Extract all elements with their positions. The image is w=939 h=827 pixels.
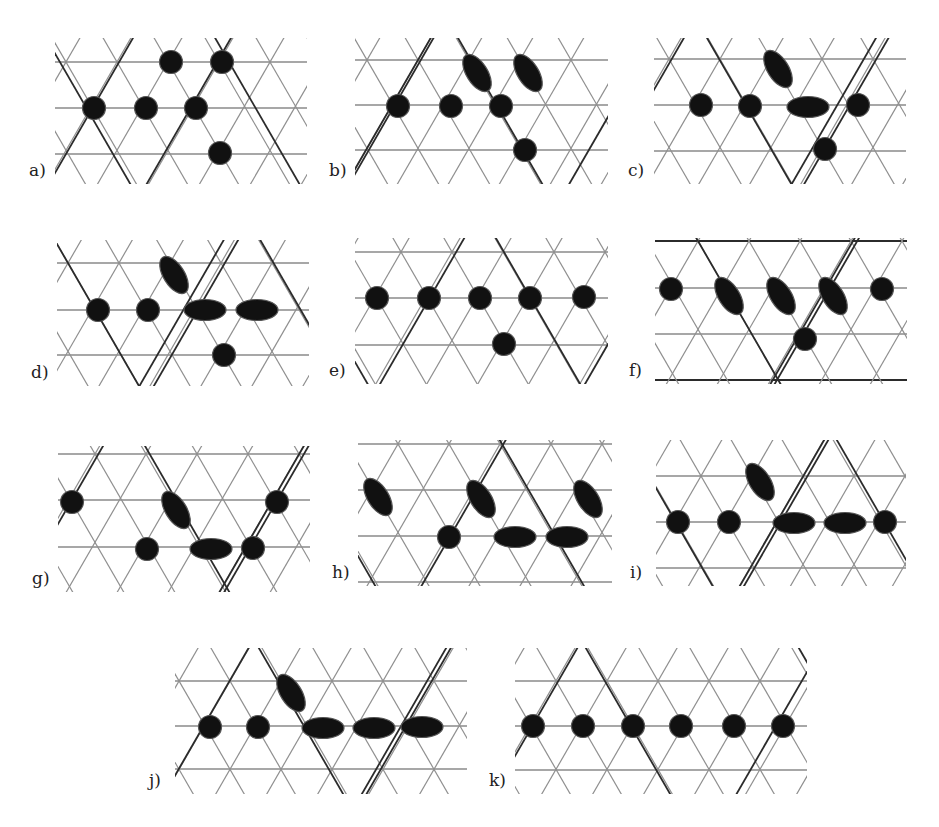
lattice-diagonal-line [376, 281, 838, 827]
lattice-diagonal-line [529, 281, 939, 827]
lattice-diagonal-line [886, 281, 939, 827]
lattice-diagonal-line [121, 281, 583, 827]
lattice-diagonal-line [0, 281, 379, 827]
highlighted-lattice-line [284, 356, 746, 827]
spherical-particle [522, 715, 545, 738]
lattice-diagonal-line [784, 281, 939, 827]
spherical-particle [622, 715, 645, 738]
lattice-diagonal-line [478, 281, 939, 827]
lattice-diagonal-line [0, 281, 379, 827]
lattice-diagonal-line [70, 281, 532, 827]
panel-label: k) [489, 772, 506, 789]
lattice-diagonal-line [784, 281, 939, 827]
spherical-particle [572, 715, 595, 738]
highlighted-lattice-line [356, 250, 818, 827]
lattice-diagonal-line [478, 281, 939, 827]
lattice-diagonal-line [0, 281, 430, 827]
lattice-diagonal-line [19, 281, 481, 827]
lattice-diagonal-line [70, 281, 532, 827]
lattice-diagonal-line [835, 281, 939, 827]
lattice-diagonal-line [223, 281, 685, 827]
lattice-diagonal-line [0, 281, 430, 827]
lattice-diagonal-line [631, 281, 939, 827]
spherical-particle [670, 715, 693, 738]
lattice-diagonal-line [121, 281, 583, 827]
highlighted-lattice-line [509, 388, 939, 827]
lattice-diagonal-line [172, 281, 634, 827]
lattice-diagonal-line [376, 281, 838, 827]
lattice-diagonal-line [223, 281, 685, 827]
lattice-diagonal-line [529, 281, 939, 827]
lattice-diagonal-line [580, 281, 939, 827]
lattice-diagonal-line [274, 281, 736, 827]
highlighted-lattice-line [569, 250, 939, 827]
lattice-diagonal-line [19, 281, 481, 827]
lattice-diagonal-line [682, 281, 939, 827]
lattice-diagonal-line [274, 281, 736, 827]
lattice-diagonal-line [886, 281, 939, 827]
lattice-diagonal-line [682, 281, 939, 827]
lattice-diagonal-line [427, 281, 889, 827]
lattice-diagonal-line [631, 281, 939, 827]
spherical-particle [772, 715, 795, 738]
lattice-diagonal-line [325, 281, 787, 827]
lattice-diagonal-line [172, 281, 634, 827]
lattice-diagram [0, 0, 939, 827]
lattice-diagonal-line [427, 281, 889, 827]
lattice-lines [0, 250, 939, 827]
lattice-diagonal-line [580, 281, 939, 827]
spherical-particle [723, 715, 746, 738]
lattice-diagonal-line [325, 281, 787, 827]
lattice-diagonal-line [835, 281, 939, 827]
